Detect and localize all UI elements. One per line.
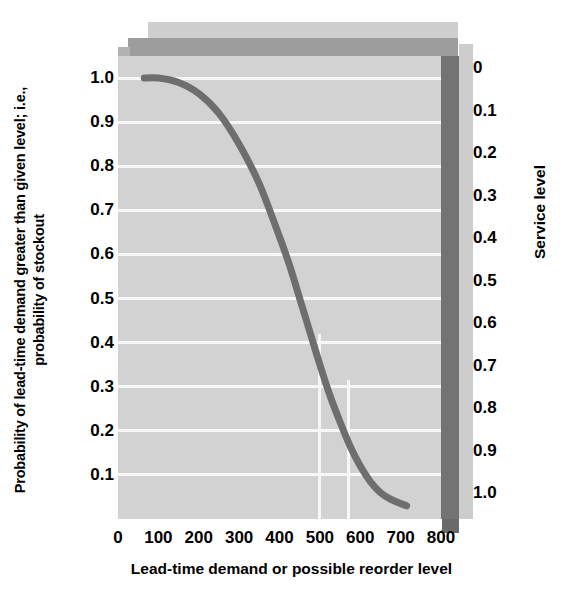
y-axis-tick-label: 0.5 [70, 289, 114, 309]
service-level-tick-label: 0.8 [473, 398, 497, 418]
service-level-panel [459, 44, 473, 519]
service-level-tick-label: 0.5 [473, 271, 497, 291]
y-axis-tick-label: 1.0 [70, 68, 114, 88]
y-axis-title-wrap: Probability of lead-time demand greater … [0, 60, 60, 520]
y-axis-title: Probability of lead-time demand greater … [10, 60, 50, 520]
y-axis-tick-label: 0.7 [70, 200, 114, 220]
service-level-tick-label: 1.0 [473, 483, 497, 503]
service-level-title-wrap: Service level [520, 200, 583, 240]
stockout-probability-curve [118, 56, 441, 519]
service-level-tick-label: 0.7 [473, 356, 497, 376]
x-axis-tick-label: 400 [265, 528, 293, 548]
chart-figure: 1.00.90.80.70.60.50.40.30.20.1 Probabili… [0, 0, 583, 615]
service-level-tick-label: 0.4 [473, 228, 497, 248]
plot-area [118, 56, 441, 519]
chart-3d-top-left-slant [118, 47, 130, 56]
service-level-tick-label: 0.6 [473, 313, 497, 333]
x-axis-tick-label: 700 [386, 528, 414, 548]
y-axis-tick-label: 0.2 [70, 421, 114, 441]
x-axis-tick-label: 600 [346, 528, 374, 548]
x-axis-tick-label: 200 [185, 528, 213, 548]
x-axis-tick-label: 0 [113, 528, 122, 548]
service-level-title: Service level [528, 142, 552, 282]
y-axis-tick-label: 0.6 [70, 244, 114, 264]
x-axis-tick-label: 800 [427, 528, 455, 548]
y-axis-tick-labels: 1.00.90.80.70.60.50.40.30.20.1 [64, 0, 114, 615]
y-axis-tick-label: 0.8 [70, 156, 114, 176]
y-axis-tick-label: 0.3 [70, 377, 114, 397]
chart-top-shadow-band [148, 22, 458, 38]
service-level-tick-label: 0 [473, 58, 482, 78]
y-axis-tick-label: 0.9 [70, 112, 114, 132]
service-level-tick-label: 0.3 [473, 186, 497, 206]
service-level-tick-label: 0.9 [473, 441, 497, 461]
chart-3d-right-wall [441, 56, 459, 533]
service-level-tick-label: 0.2 [473, 143, 497, 163]
y-axis-tick-label: 0.4 [70, 333, 114, 353]
y-axis-tick-label: 0.1 [70, 465, 114, 485]
x-axis-tick-label: 300 [225, 528, 253, 548]
x-axis-tick-label: 100 [144, 528, 172, 548]
service-level-tick-labels: 00.10.20.30.40.50.60.70.80.91.0 [473, 0, 533, 615]
service-level-tick-label: 0.1 [473, 101, 497, 121]
x-axis-tick-label: 500 [306, 528, 334, 548]
chart-3d-top-face [128, 38, 458, 56]
